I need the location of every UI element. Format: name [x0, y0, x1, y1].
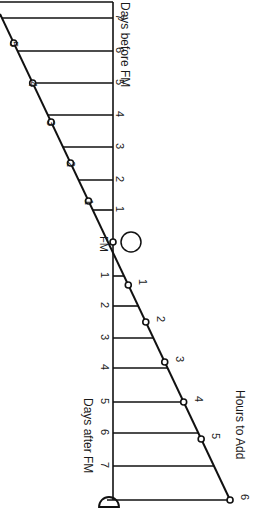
- hour-after-label: 2: [155, 316, 167, 322]
- days-before-fm-label: Days before FM: [118, 2, 132, 87]
- day-after-tick-label: 4: [99, 364, 111, 370]
- day-before-tick-label: 1: [114, 206, 126, 212]
- hour-marker-dot: [227, 497, 233, 503]
- day-after-tick-label: 3: [99, 334, 111, 340]
- fm-label: FM: [98, 236, 110, 252]
- hour-marker-dot: [181, 399, 187, 405]
- full-moon-icon: [121, 232, 141, 252]
- hour-after-label: 5: [210, 433, 222, 439]
- hour-after-label: 6: [239, 494, 251, 500]
- hour-marker-dot: [162, 359, 168, 365]
- day-before-tick-label: 3: [114, 143, 126, 149]
- day-after-tick-label: 1: [99, 272, 111, 278]
- day-before-tick-label: 4: [114, 111, 126, 117]
- day-before-tick-label: 2: [114, 176, 126, 182]
- hours-to-add-title: Hours to Add: [233, 390, 247, 459]
- day-after-tick-label: 5: [99, 398, 111, 404]
- days-after-fm-label: Days after FM: [81, 398, 95, 473]
- hours-diagonal-line: [0, 14, 231, 502]
- day-after-tick-label: 7: [99, 462, 111, 468]
- hour-before-label: 1: [83, 199, 95, 205]
- hours-to-add-diagram: 7654321123456754321123456 Days before FM…: [0, 0, 260, 516]
- hour-before-label: 3: [45, 120, 57, 126]
- day-after-tick-label: 6: [99, 429, 111, 435]
- hour-marker-dot: [125, 282, 131, 288]
- hour-before-label: 2: [65, 161, 77, 167]
- hour-marker-dot: [198, 436, 204, 442]
- hour-after-label: 3: [174, 356, 186, 362]
- day-after-tick-label: 2: [99, 302, 111, 308]
- hour-after-label: 4: [193, 396, 205, 402]
- hour-marker-dot: [143, 319, 149, 325]
- hour-before-label: 5: [8, 41, 20, 47]
- hour-before-label: 4: [27, 81, 39, 87]
- crescent-moon-icon: [99, 497, 119, 507]
- hour-after-label: 1: [137, 279, 149, 285]
